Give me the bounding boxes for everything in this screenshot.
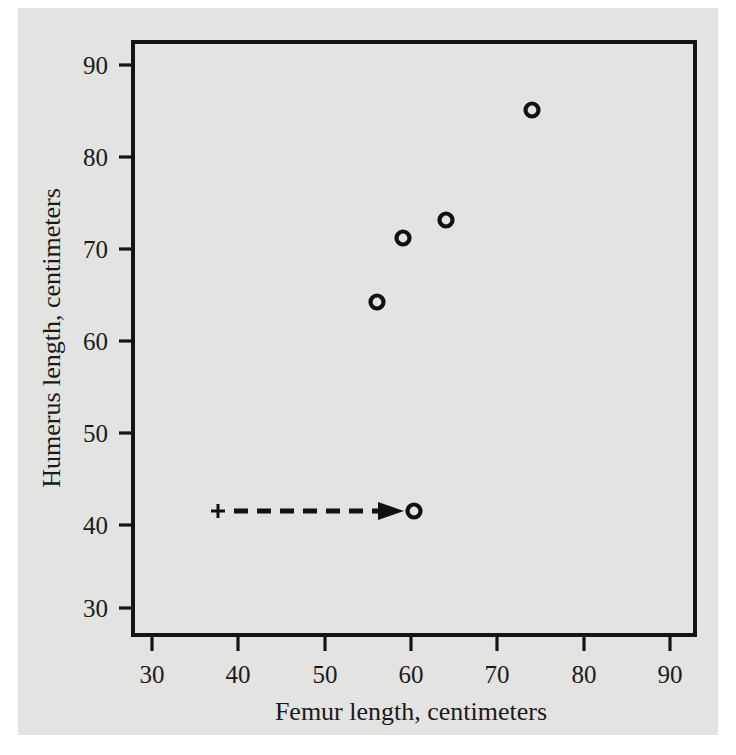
y-tick-label-90: 90: [83, 52, 108, 79]
prediction-annotation: [211, 502, 421, 520]
scatter-plot: 90 80 70 60 50 40 30 30 40 50 60 70 80 9…: [18, 8, 718, 735]
x-tick-label-70: 70: [485, 661, 510, 688]
y-axis-ticks: [119, 65, 133, 608]
x-tick-label-40: 40: [226, 661, 251, 688]
x-tick-label-80: 80: [572, 661, 597, 688]
data-point-64-72: [440, 214, 453, 227]
dashed-arrow-head: [378, 502, 404, 520]
y-tick-label-60: 60: [83, 328, 108, 355]
x-tick-label-50: 50: [313, 661, 338, 688]
y-tick-label-30: 30: [83, 595, 108, 622]
plot-frame: [133, 42, 695, 635]
x-axis-ticks: [152, 635, 670, 651]
data-point-74-84: [526, 104, 539, 117]
data-point-59-70: [397, 232, 410, 245]
data-point-56-63: [371, 296, 384, 309]
data-points: [371, 104, 539, 309]
x-axis-title: Femur length, centimeters: [275, 697, 547, 726]
y-tick-label-50: 50: [83, 420, 108, 447]
x-tick-label-90: 90: [658, 661, 683, 688]
y-tick-label-80: 80: [83, 144, 108, 171]
x-tick-label-30: 30: [140, 661, 165, 688]
y-tick-label-70: 70: [83, 236, 108, 263]
x-axis-tick-labels: 30 40 50 60 70 80 90: [140, 661, 683, 688]
y-axis-title: Humerus length, centimeters: [37, 188, 66, 488]
y-tick-label-40: 40: [83, 512, 108, 539]
y-axis-tick-labels: 90 80 70 60 50 40 30: [83, 52, 108, 622]
x-tick-label-60: 60: [399, 661, 424, 688]
figure-panel: 90 80 70 60 50 40 30 30 40 50 60 70 80 9…: [18, 8, 718, 735]
predicted-point-60-41: [408, 505, 421, 518]
